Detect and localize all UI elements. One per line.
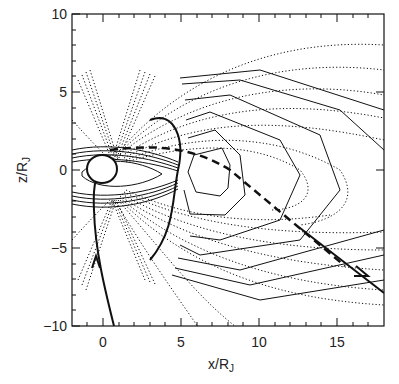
inner-contours <box>72 147 178 207</box>
current-sheet-line <box>110 147 345 266</box>
y-tick-5: 5 <box>59 84 67 100</box>
boundary-curve <box>150 118 180 260</box>
x-axis-label: x/RJ <box>208 356 234 374</box>
x-tick-15: 15 <box>329 334 345 350</box>
y-axis-label: z/RJ <box>14 157 32 183</box>
plot-area <box>72 44 384 330</box>
y-tick-minus-10: −10 <box>43 318 67 334</box>
x-tick-10: 10 <box>251 334 267 350</box>
x-tick-0: 0 <box>99 334 107 350</box>
y-tick-10: 10 <box>51 6 67 22</box>
trajectory-outbound <box>300 228 384 293</box>
x-tick-5: 5 <box>177 334 185 350</box>
y-tick-minus-5: −5 <box>51 240 67 256</box>
magnetosphere-plot: 0 5 10 15 10 5 0 −5 −10 x/RJ z/RJ <box>0 0 399 384</box>
x-ticks <box>87 14 368 326</box>
y-tick-0: 0 <box>59 162 67 178</box>
trajectory-inbound <box>94 175 114 326</box>
outer-contours <box>172 70 384 300</box>
jupiter-planet <box>87 155 117 183</box>
